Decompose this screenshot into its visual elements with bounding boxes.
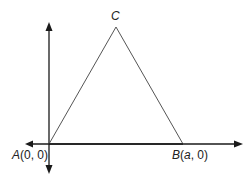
label-a-coords: (0, 0) [20, 148, 48, 162]
x-axis-left-arrow-icon [25, 141, 33, 148]
triangle-abc [49, 27, 183, 144]
diagram-canvas: C A(0, 0) B(a, 0) [0, 0, 250, 182]
y-axis-down-arrow-icon [46, 165, 53, 174]
triangle-diagram: C A(0, 0) B(a, 0) [0, 0, 250, 182]
label-c: C [111, 9, 120, 23]
edge-cb [116, 27, 183, 144]
label-a: A(0, 0) [11, 148, 48, 162]
x-axis-right-arrow-icon [234, 141, 243, 148]
label-b-close: , 0) [191, 148, 208, 162]
y-axis-up-arrow-icon [46, 22, 53, 31]
label-b: B(a, 0) [172, 148, 208, 162]
label-b-name: B [172, 148, 180, 162]
label-a-name: A [11, 148, 20, 162]
edge-ca [49, 27, 116, 144]
